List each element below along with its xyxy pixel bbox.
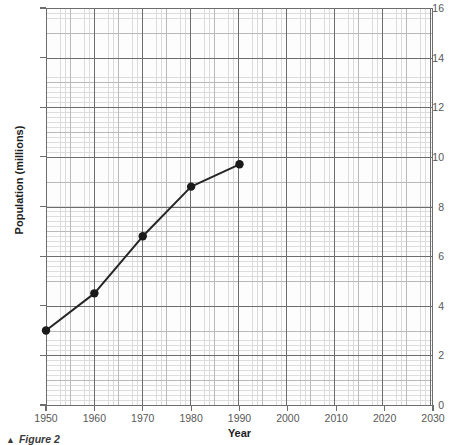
x-axis-tick: [239, 405, 240, 411]
x-axis-tick: [336, 405, 337, 411]
y-axis-tick: [40, 256, 46, 257]
x-axis-tick: [287, 405, 288, 411]
x-axis-title: Year: [46, 427, 433, 439]
y-axis-tick: [40, 355, 46, 356]
y-axis-tick-label: 12: [406, 102, 444, 113]
y-axis-line: [46, 8, 47, 406]
x-axis-tick: [94, 405, 95, 411]
figure-caption: ▲Figure 2: [6, 433, 60, 445]
y-axis-tick-label: 16: [406, 3, 444, 14]
x-axis-tick: [384, 405, 385, 411]
y-axis-tick: [40, 107, 46, 108]
y-axis-tick-label: 2: [406, 350, 444, 361]
y-axis-tick: [40, 206, 46, 207]
y-axis-tick-label: 14: [406, 52, 444, 63]
caption-label: Figure 2: [19, 433, 60, 445]
y-axis-tick: [40, 305, 46, 306]
y-axis-tick-label: 10: [406, 152, 444, 163]
y-axis-tick-label: 4: [406, 301, 444, 312]
x-axis-tick-label: 2030: [403, 413, 449, 424]
y-axis-title: Population (millions): [13, 85, 25, 275]
y-axis-tick: [40, 7, 46, 8]
plot-grid-area: [46, 8, 433, 405]
y-axis-tick-label: 8: [406, 201, 444, 212]
caption-triangle-icon: ▲: [6, 435, 15, 445]
x-axis-tick: [142, 405, 143, 411]
x-axis-tick: [432, 405, 433, 411]
x-axis-tick: [191, 405, 192, 411]
y-axis-tick: [40, 57, 46, 58]
y-axis-tick: [40, 156, 46, 157]
y-axis-tick-label: 6: [406, 251, 444, 262]
x-axis-tick: [45, 405, 46, 411]
y-axis-tick-label: 0: [406, 400, 444, 411]
